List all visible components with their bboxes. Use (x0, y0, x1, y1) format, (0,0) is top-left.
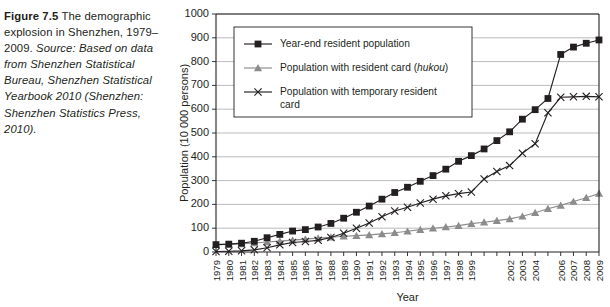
data-point-square (328, 220, 335, 227)
data-point-square (366, 203, 373, 210)
data-point-square (289, 228, 296, 235)
x-axis-tick-label: 2006 (556, 260, 567, 281)
data-point-square (302, 226, 309, 233)
data-point-x (417, 199, 424, 206)
x-axis-tick-label: 1991 (364, 260, 375, 281)
data-point-square (255, 41, 262, 48)
data-point-square (251, 238, 258, 245)
x-axis-tick-label: 2007 (568, 260, 579, 281)
data-point-x (391, 207, 398, 214)
y-axis-tick-label: 600 (191, 102, 209, 114)
x-axis-tick-label: 1997 (441, 260, 452, 281)
legend-label: Population with temporary resident (280, 86, 437, 97)
data-point-square (583, 40, 590, 47)
x-axis-tick-label: 1992 (377, 260, 388, 281)
y-axis-title: Population (10 000 persons) (178, 64, 190, 202)
figure-source-text: Based on data from Shenzhen Statistical … (4, 42, 153, 134)
data-point-square (379, 196, 386, 203)
legend-label-wrap: card (280, 99, 300, 110)
data-point-square (340, 215, 347, 222)
data-point-square (238, 240, 245, 247)
data-point-triangle (531, 209, 539, 216)
data-point-square (545, 95, 552, 102)
data-point-square (570, 44, 577, 51)
data-point-x (481, 175, 488, 182)
data-point-x (532, 140, 539, 147)
x-axis-tick-label: 1998 (454, 260, 465, 281)
data-point-square (391, 189, 398, 196)
data-point-square (506, 128, 513, 135)
data-point-square (430, 172, 437, 179)
data-point-square (493, 137, 500, 144)
figure-number: Figure 7.5 (4, 10, 58, 22)
data-point-square (264, 234, 271, 241)
legend-label: Year-end resident population (280, 38, 410, 49)
data-point-square (532, 106, 539, 113)
x-axis-tick-label: 1996 (428, 260, 439, 281)
data-point-square (315, 224, 322, 231)
y-axis-tick-label: 300 (191, 174, 209, 186)
chart-legend: Year-end resident populationPopulation w… (234, 27, 472, 117)
demographic-explosion-line-chart: 01002003004005006007008009001000 1979198… (176, 0, 610, 307)
x-axis-tick-label: 1988 (326, 260, 337, 281)
series-2 (212, 190, 603, 248)
x-axis-tick-label: 1981 (237, 260, 248, 281)
x-axis-tick-label: 1982 (249, 260, 260, 281)
figure-container: Figure 7.5 The demographic explosion in … (0, 0, 610, 307)
x-axis-tick-label: 1980 (224, 260, 235, 281)
data-point-x (544, 109, 551, 116)
x-axis-tick-label: 1990 (351, 260, 362, 281)
data-point-x (366, 219, 373, 226)
figure-caption-column: Figure 7.5 The demographic explosion in … (0, 0, 176, 307)
x-axis-tick-label: 2004 (530, 259, 541, 281)
data-point-square (404, 184, 411, 191)
x-axis-tick-label: 1989 (339, 260, 350, 281)
data-point-square (442, 166, 449, 173)
figure-caption: Figure 7.5 The demographic explosion in … (4, 8, 166, 137)
data-point-square (417, 178, 424, 185)
data-point-square (225, 241, 232, 248)
data-point-triangle (582, 194, 590, 201)
y-axis-tick-label: 500 (191, 126, 209, 138)
y-axis-tick-label: 700 (191, 78, 209, 90)
x-axis-tick-label: 1985 (288, 260, 299, 281)
x-axis-tick-label: 1986 (300, 260, 311, 281)
x-axis-title: Year (396, 291, 419, 303)
legend-label: Population with resident card (hukou) (280, 62, 448, 73)
y-axis-tick-label: 400 (191, 150, 209, 162)
data-point-square (557, 51, 564, 58)
data-point-square (276, 231, 283, 238)
x-axis-tick-label: 1987 (313, 260, 324, 281)
y-axis-tick-label: 1000 (185, 7, 209, 19)
x-axis-tick-label: 1984 (275, 259, 286, 281)
x-axis-tick-label: 2003 (517, 260, 528, 281)
data-point-x (429, 196, 436, 203)
y-axis-tick-label: 800 (191, 55, 209, 67)
x-axis-tick-label: 1994 (403, 259, 414, 281)
x-axis-tick-label: 1979 (211, 260, 222, 281)
data-point-x (378, 213, 385, 220)
data-point-square (519, 116, 526, 123)
y-axis-tick-label: 100 (191, 221, 209, 233)
y-axis-tick-label: 900 (191, 31, 209, 43)
data-point-square (455, 158, 462, 165)
x-axis-ticks: 1979198019811982198319841985198619871988… (211, 252, 605, 281)
y-axis-tick-label: 200 (191, 197, 209, 209)
x-axis-tick-label: 1983 (262, 260, 273, 281)
data-point-x (493, 168, 500, 175)
data-point-square (353, 209, 360, 216)
data-point-x (519, 150, 526, 157)
x-axis-tick-label: 2009 (594, 260, 605, 281)
y-axis-tick-label: 0 (203, 245, 209, 257)
chart-column: 01002003004005006007008009001000 1979198… (176, 0, 610, 307)
data-point-square (481, 146, 488, 153)
x-axis-tick-label: 1999 (466, 260, 477, 281)
data-point-square (468, 152, 475, 159)
x-axis-tick-label: 1995 (415, 260, 426, 281)
data-point-x (506, 162, 513, 169)
figure-source-label: Source: (36, 42, 76, 54)
x-axis-tick-label: 1993 (390, 260, 401, 281)
x-axis-tick-label: 2002 (505, 260, 516, 281)
x-axis-tick-label: 2008 (581, 260, 592, 281)
